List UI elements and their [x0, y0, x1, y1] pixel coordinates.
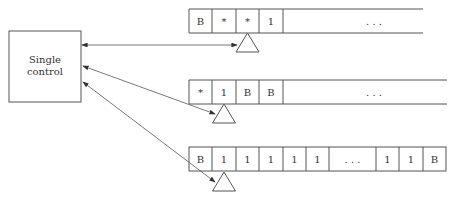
- tape-cell: B: [197, 154, 204, 165]
- tape-cell: *: [198, 87, 203, 98]
- tape-cell: B: [197, 16, 204, 27]
- tape-1: B * * 1 . . .: [189, 9, 423, 52]
- tape-head-icon: [213, 104, 236, 123]
- arrow-control-head-2: [83, 66, 215, 114]
- tape-ellipsis: . . .: [366, 16, 382, 27]
- tape-ellipsis: . . .: [366, 87, 382, 98]
- tape-cell: *: [245, 16, 250, 27]
- single-control-box: Single control: [9, 31, 81, 102]
- tape-cell: 1: [268, 154, 274, 165]
- tape-cell: B: [244, 87, 251, 98]
- tape-cell: 1: [291, 154, 297, 165]
- tape-cell: 1: [314, 154, 320, 165]
- tape-cell: B: [267, 87, 274, 98]
- arrow-control-head-3: [83, 82, 215, 182]
- tape-cell: 1: [268, 16, 274, 27]
- control-label-line2: control: [27, 66, 63, 77]
- tape-cell: 1: [384, 154, 390, 165]
- tape-cell: 1: [221, 87, 227, 98]
- multitape-turing-machine-diagram: Single control B * * 1 . . . * 1 B B . .…: [0, 0, 450, 199]
- tape-2: * 1 B B . . .: [189, 80, 447, 123]
- tape-cell: 1: [408, 154, 414, 165]
- control-label-line1: Single: [29, 54, 61, 65]
- tape-3: B 1 1 1 1 1 . . . 1 1 B: [189, 147, 446, 191]
- tape-cell: 1: [221, 154, 227, 165]
- tape-cell: 1: [244, 154, 250, 165]
- tape-cell: *: [222, 16, 227, 27]
- tape-head-icon: [236, 33, 259, 52]
- tape-ellipsis: . . .: [345, 154, 361, 165]
- tape-head-icon: [213, 172, 236, 191]
- tape-cell: B: [431, 154, 438, 165]
